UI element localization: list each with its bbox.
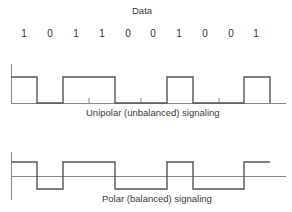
unipolar-waveform [11,64,286,104]
waveform-canvas [0,0,292,212]
polar-signal [11,162,270,189]
unipolar-caption: Unipolar (unbalanced) signaling [86,107,220,118]
polar-caption: Polar (balanced) signaling [102,193,212,204]
